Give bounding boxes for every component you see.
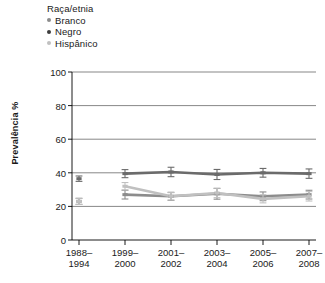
datapoint-hispânico-2 xyxy=(168,193,175,200)
plot-area xyxy=(0,0,325,283)
datapoint-negro-5 xyxy=(306,169,313,178)
prevalence-line-chart: Raça/etnia Branco Negro Hispânico Preval… xyxy=(0,0,325,283)
datapoint-hispânico-1 xyxy=(122,183,129,190)
datapoint-negro-0 xyxy=(76,176,83,181)
datapoint-negro-4 xyxy=(260,168,267,177)
datapoint-hispânico-5 xyxy=(306,192,313,201)
datapoint-hispânico-3 xyxy=(214,188,221,197)
datapoint-negro-3 xyxy=(214,169,221,179)
datapoint-negro-1 xyxy=(122,170,129,178)
datapoint-branco-1 xyxy=(122,190,129,199)
datapoint-hispânico-0 xyxy=(76,198,83,204)
datapoint-negro-2 xyxy=(168,167,175,176)
